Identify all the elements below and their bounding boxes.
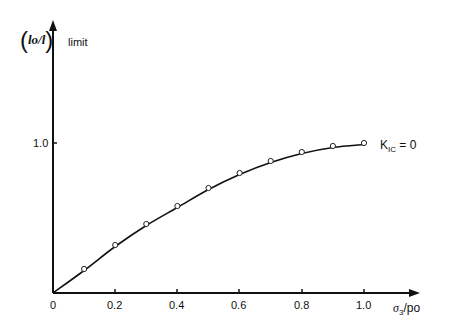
data-point bbox=[175, 203, 180, 208]
y-axis-label-limit: limit bbox=[68, 36, 88, 48]
x-tick-label: 0.8 bbox=[294, 299, 309, 311]
data-point bbox=[299, 149, 304, 154]
y-tick-label: 1.0 bbox=[33, 137, 48, 149]
x-axis-label: σ3/po bbox=[393, 301, 420, 317]
x-tick-label: 0.4 bbox=[169, 299, 184, 311]
data-point bbox=[237, 170, 242, 175]
data-point bbox=[144, 221, 149, 226]
data-point bbox=[268, 158, 273, 163]
curve-annotation: KIC = 0 bbox=[380, 138, 416, 154]
x-axis-arrow-icon bbox=[409, 289, 420, 297]
x-tick-label: 1.0 bbox=[356, 299, 371, 311]
data-point bbox=[113, 242, 118, 247]
x-tick-label: 0 bbox=[50, 299, 56, 311]
data-curve bbox=[53, 145, 364, 294]
data-point bbox=[206, 185, 211, 190]
x-tick-label: 0.2 bbox=[107, 299, 122, 311]
data-point bbox=[82, 266, 87, 271]
chart-plot bbox=[0, 0, 453, 329]
data-points bbox=[82, 140, 367, 271]
data-point bbox=[330, 143, 335, 148]
x-tick-label: 0.6 bbox=[231, 299, 246, 311]
data-point bbox=[361, 140, 366, 145]
y-axis-label: (lo/l) bbox=[20, 26, 53, 54]
